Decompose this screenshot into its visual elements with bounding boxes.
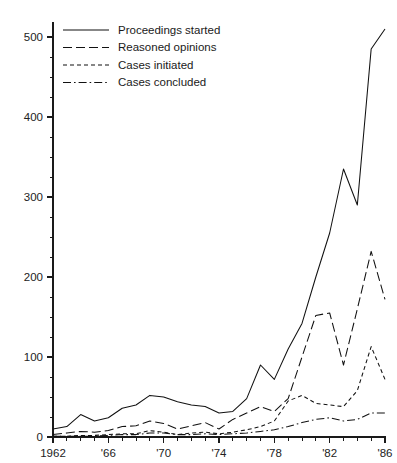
y-tick-label: 500 [24,31,43,43]
legend-label-0: Proceedings started [118,24,220,36]
x-tick-label: '86 [378,447,393,459]
y-tick-label: 300 [24,191,43,203]
y-tick-label: 100 [24,351,43,363]
chart-legend: Proceedings startedReasoned opinionsCase… [63,24,220,89]
x-tick-label: 1962 [40,447,66,459]
x-tick-label: '70 [156,447,171,459]
series-line-2 [53,347,385,437]
x-axis-ticks [53,437,385,443]
series-line-0 [53,29,385,429]
line-chart-canvas: 0100200300400500 1962'66'70'74'78'82'86 … [0,0,397,463]
series-line-1 [53,251,385,434]
legend-label-3: Cases concluded [118,76,206,88]
y-tick-label: 0 [37,431,43,443]
y-tick-label: 200 [24,271,43,283]
x-tick-label: '82 [322,447,337,459]
series-line-3 [53,413,385,436]
data-series-group [53,29,385,436]
x-tick-label: '78 [267,447,282,459]
x-tick-label: '66 [101,447,116,459]
x-axis-labels: 1962'66'70'74'78'82'86 [40,447,392,459]
chart-figure: 0100200300400500 1962'66'70'74'78'82'86 … [0,0,397,463]
legend-label-2: Cases initiated [118,59,193,71]
y-tick-label: 400 [24,111,43,123]
y-axis-ticks [47,37,53,437]
x-tick-label: '74 [212,447,228,459]
legend-label-1: Reasoned opinions [118,41,217,53]
y-axis-labels: 0100200300400500 [24,31,43,443]
